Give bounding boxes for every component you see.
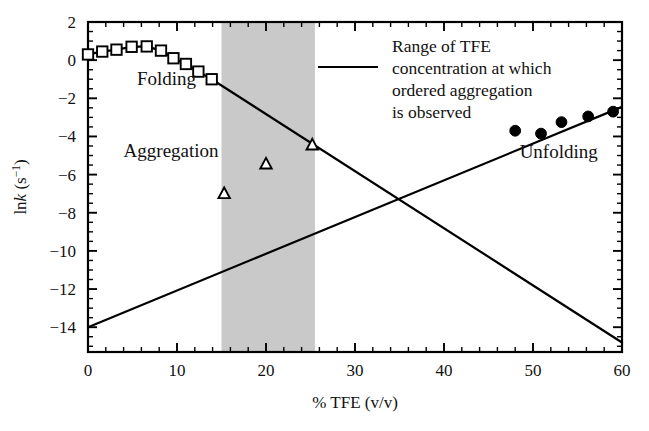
- y-tick-label-3: −4: [58, 127, 77, 146]
- figure-container: 010203040506020−2−4−6−8−10−12−14 Folding…: [0, 0, 649, 431]
- series-label-unfolding: Unfolding: [520, 141, 599, 162]
- unfolding-point-2: [556, 117, 567, 128]
- folding-point-6: [168, 53, 178, 63]
- x-tick-label-10: 10: [169, 361, 186, 380]
- series-label-aggregation: Aggregation: [124, 140, 219, 161]
- x-tick-label-20: 20: [258, 361, 275, 380]
- y-tick-label-7: −12: [49, 280, 76, 299]
- x-tick-label-30: 30: [347, 361, 364, 380]
- folding-point-1: [97, 46, 107, 56]
- y-tick-label-4: −6: [58, 166, 76, 185]
- folding-point-4: [142, 41, 152, 51]
- x-tick-label-0: 0: [84, 361, 93, 380]
- chart-background: [0, 0, 649, 431]
- unfolding-point-0: [510, 125, 521, 136]
- series-label-folding: Folding: [137, 68, 197, 89]
- y-tick-label-6: −10: [49, 242, 76, 261]
- folding-point-5: [156, 45, 166, 55]
- unfolding-point-4: [608, 106, 619, 117]
- unfolding-point-1: [536, 128, 547, 139]
- y-tick-label-1: 0: [68, 51, 77, 70]
- folding-point-0: [83, 49, 93, 59]
- chart-canvas: 010203040506020−2−4−6−8−10−12−14 Folding…: [0, 0, 649, 431]
- folding-point-3: [126, 42, 136, 52]
- shaded-aggregation-band: [222, 22, 315, 352]
- y-tick-label-0: 2: [68, 13, 77, 32]
- y-tick-label-5: −8: [58, 204, 76, 223]
- folding-point-9: [207, 74, 217, 84]
- y-tick-label-8: −14: [49, 318, 76, 337]
- x-tick-label-50: 50: [525, 361, 542, 380]
- legend-text-line-3: is observed: [392, 102, 471, 122]
- x-axis-title: % TFE (v/v): [312, 393, 398, 412]
- y-tick-label-2: −2: [58, 89, 76, 108]
- x-tick-label-60: 60: [614, 361, 631, 380]
- x-tick-label-40: 40: [436, 361, 453, 380]
- legend-text-line-1: concentration at which: [392, 58, 552, 78]
- folding-point-2: [111, 44, 121, 54]
- legend-text-line-2: ordered aggregation: [392, 80, 533, 100]
- unfolding-point-3: [583, 111, 594, 122]
- aggregation-range-band: [222, 22, 315, 352]
- legend-text-line-0: Range of TFE: [392, 36, 491, 56]
